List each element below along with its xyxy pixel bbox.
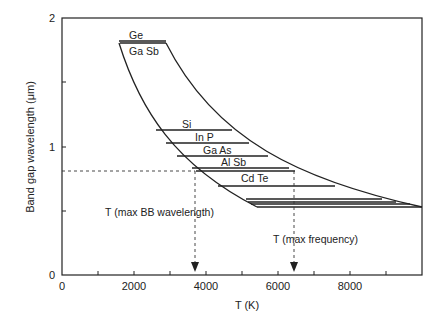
x-tick-8000: 8000 [338, 280, 362, 292]
label-si: Si [182, 118, 191, 130]
x-ticks [62, 82, 386, 275]
x-tick-0: 0 [59, 280, 65, 292]
label-alsb: Al Sb [221, 156, 246, 168]
label-gasb: Ga Sb [129, 45, 159, 57]
label-cdte: Cd Te [241, 172, 268, 184]
band-gap-chart: 0 2000 4000 6000 8000 0 1 2 T (K) Band g… [0, 0, 441, 326]
label-gaas: Ga As [203, 144, 232, 156]
x-axis-label: T (K) [235, 299, 259, 311]
y-axis-label: Band gap wavelength (μm) [24, 81, 36, 213]
x-tick-4000: 4000 [194, 280, 218, 292]
y-tick-1: 1 [49, 141, 55, 153]
band-gap-lines [119, 41, 422, 207]
x-tick-2000: 2000 [122, 280, 146, 292]
label-inp: In P [195, 131, 214, 143]
label-ge: Ge [129, 29, 143, 41]
arrow-freq-icon [290, 262, 298, 272]
y-tick-0: 0 [49, 269, 55, 281]
arrow-bb-icon [191, 262, 199, 272]
label-t-max-bb: T (max BB wavelength) [105, 206, 214, 218]
plot-frame [62, 18, 422, 275]
curve-max-frequency [166, 43, 422, 207]
y-tick-2: 2 [49, 12, 55, 24]
x-tick-6000: 6000 [266, 280, 290, 292]
label-t-max-freq: T (max frequency) [273, 233, 358, 245]
